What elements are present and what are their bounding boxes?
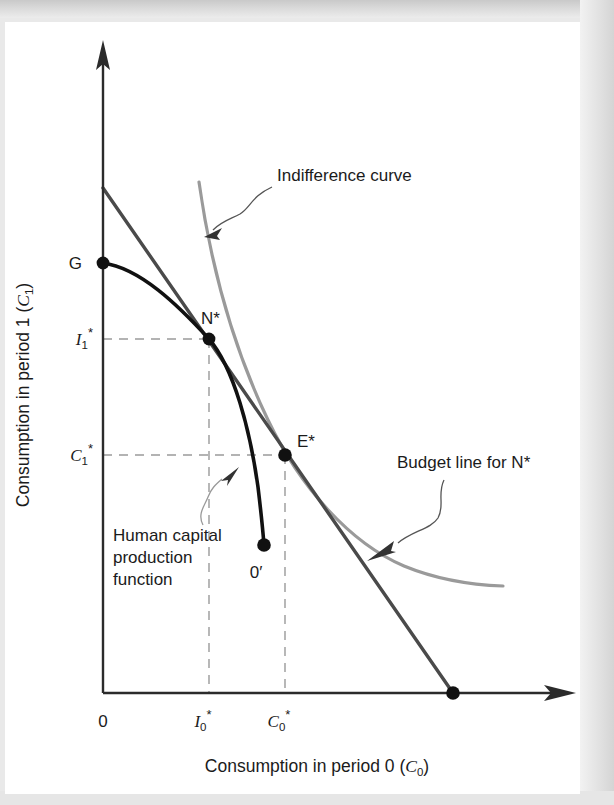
point-label-G: G	[69, 254, 82, 273]
x-origin-label: 0	[98, 712, 107, 731]
x-axis-title-var: C	[405, 756, 417, 776]
annotation-budget-line: Budget line for N*	[397, 453, 531, 472]
point-0prime-marker[interactable]	[257, 538, 271, 552]
y-tick-labels: I1* C1*	[70, 325, 93, 467]
annotation-human-capital-line1: Human capital	[113, 526, 222, 545]
figure-page: G N* E* 0′ I1* C1* 0 I0* C0* Consumption…	[0, 0, 614, 805]
point-G-marker[interactable]	[97, 257, 110, 270]
point-markers	[97, 257, 460, 700]
annotation-human-capital-line2: production	[113, 548, 192, 567]
leader-arrow-budget-line	[367, 541, 396, 561]
point-label-Nstar: N*	[201, 309, 220, 328]
x-tick-labels: 0 I0* C0*	[98, 707, 290, 733]
point-Nstar-marker[interactable]	[203, 333, 216, 346]
y-axis-title-var: C	[13, 295, 33, 307]
x-axis-title: Consumption in period 0 (C0)	[205, 756, 429, 778]
annotation-human-capital: Human capital production function	[113, 526, 222, 589]
point-label-Estar: E*	[297, 432, 315, 451]
leader-human-capital	[201, 479, 222, 525]
x-tick-I0-star: I0*	[193, 707, 211, 733]
economics-diagram: G N* E* 0′ I1* C1* 0 I0* C0* Consumption…	[0, 0, 614, 805]
leader-arrow-human-capital	[221, 467, 239, 486]
annotation-human-capital-line3: function	[113, 570, 173, 589]
x-axis-title-text: Consumption in period 0 (	[205, 756, 406, 776]
indifference-curve	[199, 182, 503, 586]
axes	[96, 40, 576, 701]
leader-indifference-curve	[213, 187, 272, 230]
budget-x-intercept-marker[interactable]	[446, 686, 460, 700]
y-tick-I1-star: I1*	[75, 325, 93, 351]
point-Estar-marker[interactable]	[278, 448, 292, 462]
x-axis-title-close: )	[423, 756, 429, 776]
y-tick-C1-star: C1*	[70, 441, 93, 467]
point-label-0prime: 0′	[250, 563, 263, 582]
guide-lines	[103, 339, 285, 693]
y-axis-title-close: )	[13, 283, 33, 289]
budget-line	[103, 188, 453, 693]
x-tick-C0-star: C0*	[268, 707, 291, 733]
y-axis-title: Consumption in period 1 (C1)	[13, 283, 35, 507]
y-axis-title-text: Consumption in period 1 (	[13, 307, 33, 508]
annotation-indifference-curve: Indifference curve	[277, 166, 412, 185]
leader-budget-line	[398, 480, 444, 543]
